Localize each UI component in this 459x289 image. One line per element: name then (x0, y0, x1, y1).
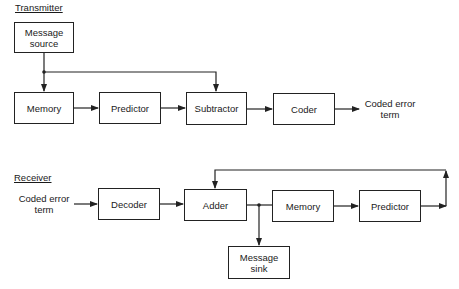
receiver-title: Receiver (14, 172, 52, 183)
rx-predictor-block: Predictor (359, 190, 421, 222)
tx-memory-block: Memory (14, 92, 74, 124)
message-sink-block: Message sink (228, 246, 290, 279)
transmitter-title: Transmitter (15, 2, 63, 13)
subtractor-block: Subtractor (186, 92, 247, 125)
tx-predictor-block: Predictor (99, 92, 161, 124)
adder-block: Adder (184, 189, 247, 221)
decoder-block: Decoder (98, 188, 160, 220)
rx-memory-block: Memory (272, 190, 334, 222)
message-source-block: Message source (14, 22, 74, 53)
tx-output-label: Coded error term (360, 98, 420, 120)
coder-block: Coder (273, 93, 335, 125)
rx-input-label: Coded error term (14, 193, 74, 215)
